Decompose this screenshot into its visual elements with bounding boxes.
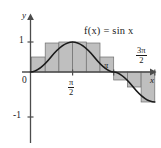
plot-canvas	[0, 0, 161, 148]
fraction-denominator: 2	[136, 56, 147, 65]
fraction-3pi-over-2: 3π 2	[136, 46, 147, 64]
function-paren-close: )	[97, 25, 101, 36]
origin-label: 0	[22, 76, 27, 86]
x-tick-label-pi-over-2: π 2	[68, 78, 74, 96]
riemann-bar	[127, 72, 141, 87]
x-tick-label-pi: π	[104, 61, 108, 70]
function-annotation: f(x) = sin x	[84, 26, 133, 37]
function-variable: x	[128, 25, 133, 36]
riemann-bar	[86, 43, 100, 72]
x-axis-label: x	[150, 76, 154, 85]
y-axis-arrow-icon	[27, 14, 34, 21]
function-sin: sin	[112, 25, 125, 36]
y-tick-label-1: 1	[19, 36, 24, 46]
x-tick-label-3pi-over-2: 3π 2	[136, 46, 147, 64]
fraction-denominator: 2	[68, 88, 74, 97]
y-tick-label-minus-1: -1	[13, 111, 21, 121]
fraction-pi-over-2: π 2	[68, 78, 74, 96]
y-axis-label: y	[22, 11, 26, 20]
riemann-bar	[45, 43, 59, 72]
function-equals: =	[103, 25, 109, 36]
riemann-bars-positive	[32, 42, 114, 72]
sine-riemann-sum-figure: y x 0 1 -1 π 2 π 3π 2 f(x) = sin x	[0, 0, 161, 148]
riemann-bars-negative	[114, 72, 155, 102]
